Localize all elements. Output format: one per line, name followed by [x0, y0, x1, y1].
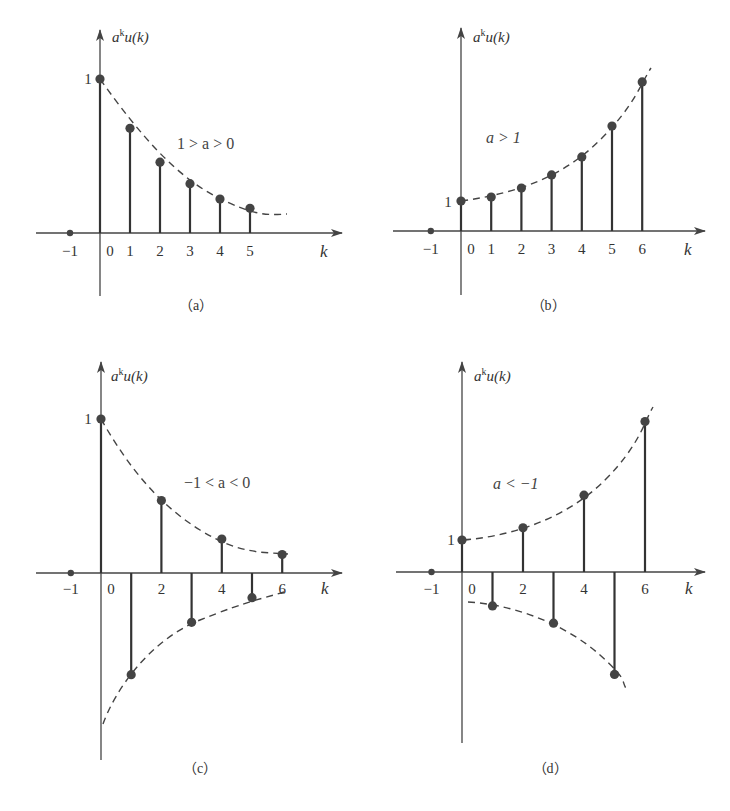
x-tick-label: 6 [638, 241, 646, 257]
data-point [517, 184, 526, 193]
x-tick-label: −1 [424, 581, 440, 597]
data-point [278, 550, 287, 559]
data-point [185, 179, 194, 188]
data-point [547, 170, 556, 179]
x-tick-label: 0 [468, 581, 476, 597]
x-tick-label: −1 [62, 243, 78, 259]
x-tick-label: 4 [218, 581, 226, 597]
data-point [549, 619, 558, 628]
x-tick-label: 0 [106, 243, 114, 259]
x-tick-label: 5 [608, 241, 616, 257]
x-tick-label: −1 [423, 241, 439, 257]
x-tick-label: 4 [578, 241, 586, 257]
x-tick-label: 3 [548, 241, 556, 257]
data-point [456, 196, 465, 205]
x-tick-label: 4 [580, 581, 588, 597]
data-point [607, 121, 616, 130]
x-tick-label: 0 [107, 581, 115, 597]
data-point [487, 193, 496, 202]
x-tick-label: 1 [126, 243, 134, 259]
data-point [245, 204, 254, 213]
data-point [96, 414, 105, 423]
data-point [579, 491, 588, 500]
x-tick-label: 2 [158, 581, 166, 597]
data-point [638, 77, 647, 86]
data-point [428, 569, 434, 575]
x-tick-label: 3 [186, 243, 194, 259]
data-point [640, 417, 649, 426]
data-point [488, 601, 497, 610]
x-tick-label: 0 [467, 241, 475, 257]
data-point [247, 593, 256, 602]
data-point [67, 230, 73, 236]
data-point [68, 570, 74, 576]
data-point [217, 535, 226, 544]
x-tick-label: 6 [278, 581, 286, 597]
x-tick-label: 2 [518, 241, 526, 257]
x-tick-label: 6 [641, 581, 649, 597]
x-tick-label: 2 [156, 243, 164, 259]
stems-layer: −1012345−10123456−10246−10246 [0, 0, 730, 811]
x-tick-label: 4 [216, 243, 224, 259]
x-tick-label: 1 [487, 241, 495, 257]
data-point [95, 74, 104, 83]
data-point [215, 195, 224, 204]
data-point [610, 670, 619, 679]
data-point [518, 523, 527, 532]
data-point [127, 670, 136, 679]
data-point [428, 228, 434, 234]
data-point [457, 535, 466, 544]
data-point [125, 124, 134, 133]
x-tick-label: 5 [246, 243, 254, 259]
x-tick-label: −1 [63, 581, 79, 597]
data-point [157, 496, 166, 505]
data-point [155, 158, 164, 167]
x-tick-label: 2 [519, 581, 527, 597]
data-point [577, 152, 586, 161]
data-point [187, 618, 196, 627]
